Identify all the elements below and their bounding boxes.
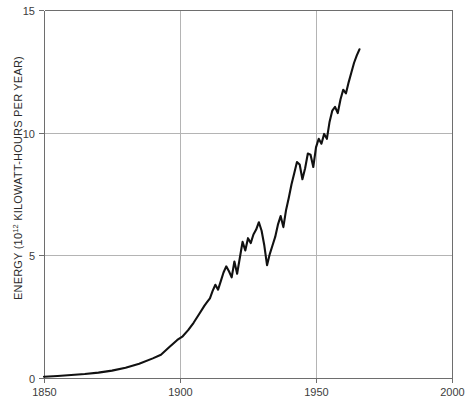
- y-tick-label-10: 10: [23, 128, 35, 140]
- y-axis-title-suffix: KILOWATT-HOURS PER YEAR): [12, 56, 24, 224]
- y-tick-label-15: 15: [23, 5, 35, 17]
- x-tick-label-1900: 1900: [168, 386, 192, 398]
- y-axis-title: ENERGY (1012 KILOWATT-HOURS PER YEAR): [11, 56, 24, 300]
- x-tick-label-2000: 2000: [440, 386, 464, 398]
- y-tick-label-5: 5: [29, 250, 35, 262]
- x-axis-ticks: 1850190019502000: [32, 378, 464, 398]
- y-axis-title-text: ENERGY (1012 KILOWATT-HOURS PER YEAR): [11, 56, 24, 300]
- y-axis-title-prefix: ENERGY (10: [12, 233, 24, 300]
- x-tick-label-1850: 1850: [32, 386, 56, 398]
- y-tick-label-0: 0: [29, 373, 35, 385]
- y-axis-title-exponent: 12: [11, 224, 20, 233]
- chart-canvas: 051015 1850190019502000 ENERGY (1012 KIL…: [0, 0, 465, 409]
- energy-consumption-chart: 051015 1850190019502000 ENERGY (1012 KIL…: [0, 0, 465, 409]
- x-tick-label-1950: 1950: [304, 386, 328, 398]
- plot-background: [44, 10, 452, 378]
- y-axis-ticks: 051015: [23, 5, 44, 385]
